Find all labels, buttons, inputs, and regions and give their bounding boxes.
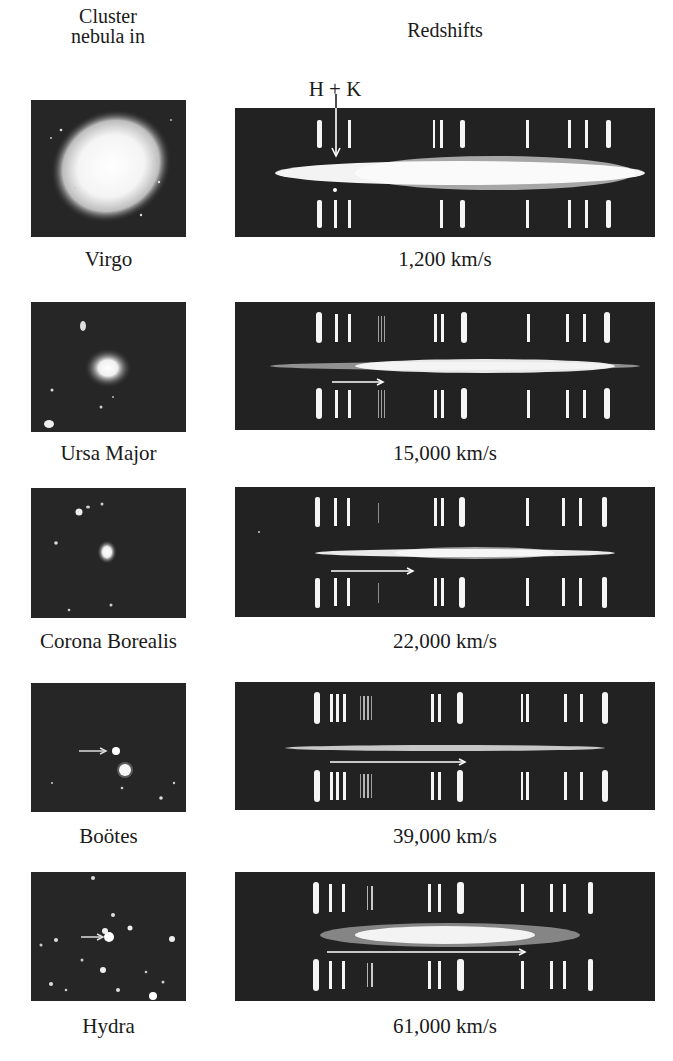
galaxy-image-bootes xyxy=(31,683,186,812)
galaxy-image-ursa-major xyxy=(31,302,186,432)
cluster-label-hydra: Hydra xyxy=(10,1015,207,1037)
redshift-value-ursa-major: 15,000 km/s xyxy=(235,442,655,464)
spectrum-bootes xyxy=(235,682,655,810)
galaxy-image-virgo xyxy=(31,100,186,237)
cluster-label-virgo: Virgo xyxy=(10,248,207,270)
cluster-label-ursa-major: Ursa Major xyxy=(10,442,207,464)
redshift-value-virgo: 1,200 km/s xyxy=(235,248,655,270)
spectrum-hydra xyxy=(235,872,655,1001)
hk-arrow-icon xyxy=(329,94,343,164)
column-header-cluster: Cluster nebula in xyxy=(32,6,184,46)
galaxy-image-corona-borealis xyxy=(31,488,186,618)
spectrum-ursa-major xyxy=(235,302,655,430)
spectrum-virgo xyxy=(235,108,655,237)
redshift-value-bootes: 39,000 km/s xyxy=(235,825,655,847)
column-header-cluster-line2: nebula in xyxy=(32,26,184,46)
column-header-cluster-line1: Cluster xyxy=(32,6,184,26)
redshift-value-corona-borealis: 22,000 km/s xyxy=(235,630,655,652)
cluster-label-corona-borealis: Corona Borealis xyxy=(10,630,207,652)
galaxy-image-hydra xyxy=(31,872,186,1001)
redshift-value-hydra: 61,000 km/s xyxy=(235,1015,655,1037)
spectrum-corona-borealis xyxy=(235,487,655,617)
column-header-redshifts: Redshifts xyxy=(235,20,655,40)
cluster-label-bootes: Boötes xyxy=(10,825,207,847)
